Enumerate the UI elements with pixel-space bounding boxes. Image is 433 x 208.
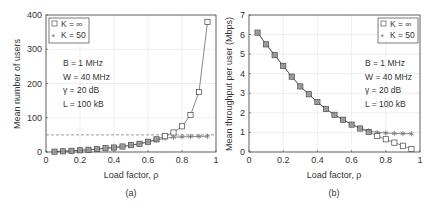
x-tick-label: 0.4 <box>108 155 121 165</box>
square-marker-icon <box>349 122 354 127</box>
square-marker-icon <box>188 112 193 117</box>
x-axis-label-b: Load factor, ρ <box>307 170 362 180</box>
y-axis-label-a: Mean number of users <box>12 38 22 129</box>
square-marker-icon <box>358 126 363 131</box>
square-marker-icon <box>145 139 150 144</box>
square-marker-icon <box>281 63 286 68</box>
square-marker-icon <box>69 148 74 153</box>
square-marker-icon <box>120 144 125 149</box>
square-marker-icon <box>196 89 201 94</box>
y-tick-label: 7 <box>240 10 245 20</box>
square-marker-icon <box>340 117 345 122</box>
square-marker-icon <box>272 53 277 58</box>
square-marker-icon <box>77 148 82 153</box>
legend-b: K = ∞ * K = 50 <box>378 18 418 43</box>
chart-panel-b: 00.20.40.60.81 01234567 K = ∞ * K = 50 B… <box>224 10 423 198</box>
x-tick-label: 0.8 <box>380 155 393 165</box>
square-marker-icon <box>162 134 167 139</box>
square-marker-icon <box>400 143 405 148</box>
square-marker-icon <box>86 147 91 152</box>
x-tick-label: 0.6 <box>345 155 358 165</box>
param-b: B = 1 MHz <box>365 58 405 68</box>
legend-a: K = ∞ * K = 50 <box>49 18 89 43</box>
square-marker-icon <box>179 124 184 129</box>
x-tick-label: 1 <box>417 155 422 165</box>
legend-b-kinf: K = ∞ <box>390 19 411 29</box>
caption-a: (a) <box>126 188 137 198</box>
y-tick-label: 300 <box>27 44 42 54</box>
x-tick-label: 0.6 <box>142 155 155 165</box>
param-b: B = 1 MHz <box>63 58 103 68</box>
x-tick-label: 0.2 <box>74 155 87 165</box>
square-marker-icon <box>111 145 116 150</box>
legend-a-k50: K = 50 <box>61 30 86 40</box>
asterisk-marker-icon: * <box>381 32 385 42</box>
square-marker-icon <box>264 42 269 47</box>
param-l: L = 100 kB <box>365 99 406 109</box>
param-l: L = 100 kB <box>63 99 104 109</box>
legend-b-k50: K = 50 <box>390 30 415 40</box>
y-tick-label: 5 <box>240 49 245 59</box>
square-marker-icon <box>171 130 176 135</box>
square-marker-icon <box>60 149 65 154</box>
square-marker-icon <box>392 140 397 145</box>
square-marker-icon <box>154 137 159 142</box>
y-tick-label: 200 <box>27 79 42 89</box>
square-marker-icon <box>128 143 133 148</box>
square-marker-icon <box>255 30 260 35</box>
params-b: B = 1 MHz W = 40 MHz γ = 20 dB L = 100 k… <box>365 58 412 109</box>
square-marker-icon <box>366 129 371 134</box>
y-tick-label: 400 <box>27 10 42 20</box>
square-marker-icon <box>409 146 414 151</box>
x-tick-label: 0 <box>43 155 48 165</box>
square-marker-icon <box>52 149 57 154</box>
x-tick-label: 0.2 <box>277 155 290 165</box>
x-axis-label-a: Load factor, ρ <box>104 170 159 180</box>
param-w: W = 40 MHz <box>365 72 412 82</box>
chart-panel-a: 00.20.40.60.81 0100200300400 K = ∞ * K =… <box>12 10 219 198</box>
y-tick-label: 6 <box>240 30 245 40</box>
square-marker-icon <box>289 74 294 79</box>
square-marker-icon <box>298 84 303 89</box>
param-gamma: γ = 20 dB <box>365 85 401 95</box>
y-axis-label-b: Mean throughput per user (Mbps) <box>224 17 234 151</box>
square-marker-icon <box>306 92 311 97</box>
legend-a-kinf: K = ∞ <box>61 19 82 29</box>
square-marker-icon <box>383 137 388 142</box>
square-marker-icon <box>103 146 108 151</box>
y-tick-label: 1 <box>240 127 245 137</box>
y-tick-label: 100 <box>27 113 42 123</box>
x-tick-label: 0.4 <box>311 155 324 165</box>
square-marker-icon <box>315 99 320 104</box>
asterisk-marker-icon: * <box>52 32 56 42</box>
square-marker-icon <box>205 19 210 24</box>
x-tick-label: 1 <box>213 155 218 165</box>
y-tick-label: 3 <box>240 88 245 98</box>
x-tick-label: 0.8 <box>176 155 189 165</box>
caption-b: (b) <box>329 188 340 198</box>
square-marker-icon <box>94 146 99 151</box>
figure: 00.20.40.60.81 0100200300400 K = ∞ * K =… <box>0 0 433 208</box>
y-tick-label: 0 <box>240 147 245 157</box>
square-marker-icon <box>323 106 328 111</box>
y-ticks-a: 0100200300400 <box>27 10 48 157</box>
param-gamma: γ = 20 dB <box>63 85 99 95</box>
square-marker-icon <box>375 133 380 138</box>
param-w: W = 40 MHz <box>63 72 110 82</box>
y-tick-label: 4 <box>240 69 245 79</box>
square-marker-icon <box>137 141 142 146</box>
y-tick-label: 2 <box>240 108 245 118</box>
square-marker-icon <box>332 112 337 117</box>
x-tick-label: 0 <box>246 155 251 165</box>
y-tick-label: 0 <box>37 147 42 157</box>
